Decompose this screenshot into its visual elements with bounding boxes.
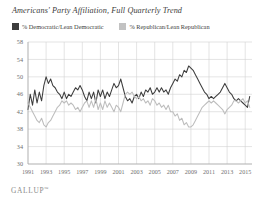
x-axis-tick-label: 2003 [131, 169, 143, 175]
legend-label-republican: % Republican/Lean Republican [129, 23, 209, 30]
x-axis-tick-label: 2005 [149, 169, 161, 175]
trademark-icon: ™ [44, 186, 49, 191]
legend-item-democratic: % Democratic/Lean Democratic [12, 23, 103, 30]
y-axis-tick-label: 30 [17, 160, 23, 167]
y-axis-tick-label: 58 [17, 38, 23, 45]
y-axis-ticks: 3034384246505458 [17, 38, 23, 167]
y-axis-tick-label: 50 [17, 73, 23, 80]
x-axis-tick-label: 2001 [112, 169, 124, 175]
y-axis-tick-label: 38 [17, 125, 23, 132]
page-title: Americans' Party Affiliation, Full Quart… [12, 6, 182, 15]
plot-svg: 3034384246505458 [0, 36, 266, 168]
plot-area: 3034384246505458 [0, 36, 266, 168]
y-axis-tick-label: 46 [17, 90, 23, 97]
gridlines [28, 42, 252, 164]
legend-item-republican: % Republican/Lean Republican [119, 23, 209, 30]
legend-swatch-republican-icon [119, 23, 126, 30]
x-axis-tick-label: 2011 [203, 169, 215, 175]
x-axis-tick-label: 2015 [239, 169, 251, 175]
x-axis-tick-label: 1997 [76, 169, 88, 175]
legend-swatch-democratic-icon [12, 23, 19, 30]
x-axis-tick-label: 2009 [185, 169, 197, 175]
chart-legend: % Democratic/Lean Democratic % Republica… [12, 23, 210, 30]
y-axis-tick-label: 34 [17, 143, 23, 150]
x-axis-tick-label: 1991 [22, 169, 34, 175]
chart-screenshot: Americans' Party Affiliation, Full Quart… [0, 0, 266, 202]
y-axis-tick-label: 54 [17, 56, 23, 63]
series-lines [28, 66, 250, 127]
gallup-logo: GALLUP™ [11, 186, 49, 195]
x-axis-tick-label: 1995 [58, 169, 70, 175]
x-axis-tick-label: 2007 [167, 169, 179, 175]
y-axis-tick-label: 42 [17, 108, 23, 115]
legend-label-democratic: % Democratic/Lean Democratic [22, 23, 103, 30]
axis-lines [28, 42, 252, 164]
x-axis-tick-label: 1999 [94, 169, 106, 175]
gallup-logo-text: GALLUP [11, 186, 44, 195]
x-axis-tick-label: 1993 [40, 169, 52, 175]
x-axis-ticks: 1991199319951997199920012003200520072009… [0, 169, 266, 181]
x-axis-tick-label: 2013 [221, 169, 233, 175]
